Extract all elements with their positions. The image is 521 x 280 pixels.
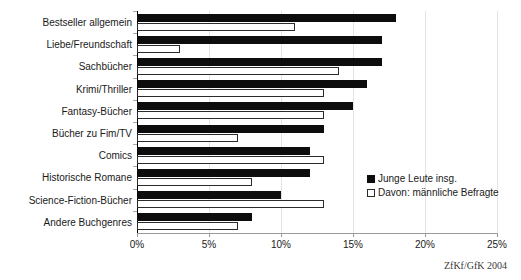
- chart-category-row: Comics: [137, 144, 497, 166]
- chart-legend: Junge Leute insg. Davon: männliche Befra…: [367, 172, 499, 200]
- legend-item-junge-leute: Junge Leute insg.: [367, 172, 499, 186]
- legend-swatch-filled-square-icon: [367, 175, 375, 183]
- chart-category-row: Fantasy-Bücher: [137, 100, 497, 122]
- x-axis-tick-label: 25%: [487, 239, 507, 250]
- chart-category-row: Krimi/Thriller: [137, 78, 497, 100]
- chart-bar: [137, 134, 238, 142]
- y-axis-tick: [133, 189, 137, 190]
- chart-bar: [137, 89, 324, 97]
- x-axis-tick-label: 20%: [415, 239, 435, 250]
- legend-label: Junge Leute insg.: [378, 172, 457, 186]
- category-label: Bestseller allgemein: [43, 17, 133, 28]
- y-axis-tick: [133, 122, 137, 123]
- y-axis-tick: [133, 55, 137, 56]
- y-axis-tick: [133, 211, 137, 212]
- chart-bar: [137, 58, 382, 66]
- chart-bar: [137, 125, 324, 133]
- x-axis-tick-label: 5%: [202, 239, 216, 250]
- bar-chart: 0%5%10%15%20%25%Bestseller allgemeinLieb…: [0, 0, 521, 280]
- legend-label: Davon: männliche Befragte: [378, 186, 499, 200]
- chart-title: [137, 0, 497, 2]
- category-label: Comics: [99, 150, 132, 161]
- chart-bar: [137, 200, 324, 208]
- y-axis-tick: [133, 11, 137, 12]
- chart-bar: [137, 191, 281, 199]
- source-note: ZfKf/GfK 2004: [444, 260, 507, 271]
- x-axis-line: [137, 233, 497, 234]
- chart-bar: [137, 23, 295, 31]
- category-label: Fantasy-Bücher: [61, 105, 132, 116]
- y-axis-tick: [133, 78, 137, 79]
- legend-swatch-outlined-square-icon: [367, 189, 375, 197]
- x-axis-tick-label: 10%: [271, 239, 291, 250]
- chart-bar: [137, 67, 339, 75]
- chart-bar: [137, 14, 396, 22]
- chart-category-row: Sachbücher: [137, 55, 497, 77]
- x-axis-tick: [425, 233, 426, 237]
- x-axis-tick-label: 0%: [130, 239, 144, 250]
- chart-bar: [137, 36, 382, 44]
- y-axis-tick: [133, 144, 137, 145]
- category-label: Sachbücher: [79, 61, 132, 72]
- y-axis-tick: [133, 33, 137, 34]
- category-label: Bücher zu Fim/TV: [52, 128, 132, 139]
- chart-bar: [137, 80, 367, 88]
- category-label: Historische Romane: [42, 172, 132, 183]
- category-label: Liebe/Freundschaft: [46, 39, 132, 50]
- category-label: Krimi/Thriller: [76, 83, 132, 94]
- chart-bar: [137, 169, 310, 177]
- x-axis-tick: [497, 233, 498, 237]
- category-label: Andere Buchgenres: [44, 216, 132, 227]
- legend-item-maennliche-befragte: Davon: männliche Befragte: [367, 186, 499, 200]
- category-label: Science-Fiction-Bücher: [29, 194, 132, 205]
- chart-bar: [137, 111, 324, 119]
- x-axis-tick: [209, 233, 210, 237]
- x-axis-tick: [281, 233, 282, 237]
- chart-category-row: Bücher zu Fim/TV: [137, 122, 497, 144]
- x-axis-tick: [137, 233, 138, 237]
- chart-bar: [137, 213, 252, 221]
- x-axis-tick: [353, 233, 354, 237]
- y-axis-tick: [133, 166, 137, 167]
- y-axis-tick: [133, 100, 137, 101]
- chart-category-row: Andere Buchgenres: [137, 211, 497, 233]
- chart-bar: [137, 45, 180, 53]
- chart-bar: [137, 178, 252, 186]
- chart-category-row: Bestseller allgemein: [137, 11, 497, 33]
- chart-bar: [137, 222, 238, 230]
- chart-bar: [137, 156, 324, 164]
- x-axis-tick-label: 15%: [343, 239, 363, 250]
- chart-category-row: Liebe/Freundschaft: [137, 33, 497, 55]
- chart-bar: [137, 147, 310, 155]
- chart-bar: [137, 102, 353, 110]
